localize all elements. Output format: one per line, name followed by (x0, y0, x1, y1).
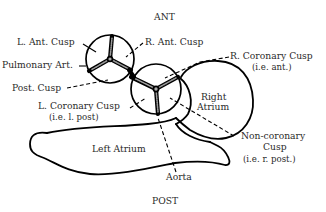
label-pulmonary-art: Pulmonary Art. (2, 59, 73, 70)
label-post-cusp: Post. Cusp (12, 82, 61, 93)
label-ant: ANT (153, 11, 176, 22)
label-l-ant-cusp: L. Ant. Cusp (17, 36, 75, 47)
right-atrium-lower-edge (176, 124, 210, 142)
pulmonary-valve (86, 35, 134, 83)
leader-post-cusp (67, 80, 108, 88)
label-r-coronary-cusp-note: (i.e. ant.) (252, 62, 292, 72)
label-non-coronary-note: (i.e. r. post.) (243, 154, 296, 164)
label-r-ant-cusp: R. Ant. Cusp (145, 36, 204, 47)
heart-valves-diagram: ANT POST L. Ant. Cusp R. Ant. Cusp Pulmo… (0, 0, 326, 212)
label-non-coronary-line1: Non-coronary (241, 130, 306, 141)
label-r-coronary-cusp: R. Coronary Cusp (230, 50, 313, 61)
label-non-coronary-line2: Cusp (263, 141, 287, 152)
aortic-valve (131, 64, 181, 114)
label-l-coronary-cusp-note: (i.e. l. post) (49, 112, 99, 122)
label-post: POST (152, 195, 179, 206)
label-aorta: Aorta (165, 171, 192, 182)
label-left-atrium: Left Atrium (92, 143, 146, 154)
label-right-atrium-line2: Atrium (196, 101, 229, 112)
label-l-coronary-cusp: L. Coronary Cusp (38, 100, 120, 111)
